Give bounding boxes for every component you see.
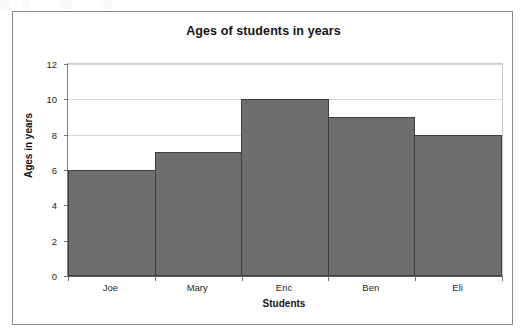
x-tick-mark xyxy=(242,276,243,281)
y-tick-label: 8 xyxy=(52,130,57,141)
y-tick-label: 6 xyxy=(52,165,57,176)
x-axis-tick-labels: JoeMaryEricBenEli xyxy=(67,282,501,293)
x-tick-label: Ben xyxy=(327,282,414,293)
chart-title: Ages of students in years xyxy=(13,24,514,38)
y-axis-title: Ages in years xyxy=(23,101,34,191)
bar-ben xyxy=(328,117,416,276)
x-tick-mark xyxy=(328,276,329,281)
x-tick-mark xyxy=(68,276,69,281)
y-tick-label: 0 xyxy=(52,271,57,282)
x-axis-title: Students xyxy=(67,298,501,309)
bar-series xyxy=(68,64,502,276)
x-tick-label: Joe xyxy=(67,282,154,293)
x-tick-mark xyxy=(415,276,416,281)
bar-eric xyxy=(241,99,329,276)
y-tick-label: 2 xyxy=(52,236,57,247)
bar-eli xyxy=(414,135,502,276)
y-tick-label: 4 xyxy=(52,200,57,211)
y-tick-label: 10 xyxy=(46,94,57,105)
x-axis-ticks xyxy=(68,276,502,281)
x-tick-label: Mary xyxy=(154,282,241,293)
scan-noise-artifact xyxy=(0,0,523,9)
plot-area: 024681012 xyxy=(67,63,503,277)
x-tick-label: Eli xyxy=(414,282,501,293)
bar-joe xyxy=(68,170,156,276)
chart-figure-frame: Ages of students in years Ages in years … xyxy=(12,11,513,325)
x-tick-mark xyxy=(502,276,503,281)
bar-mary xyxy=(155,152,243,276)
x-tick-label: Eric xyxy=(241,282,328,293)
y-tick-label: 12 xyxy=(46,59,57,70)
x-tick-mark xyxy=(155,276,156,281)
